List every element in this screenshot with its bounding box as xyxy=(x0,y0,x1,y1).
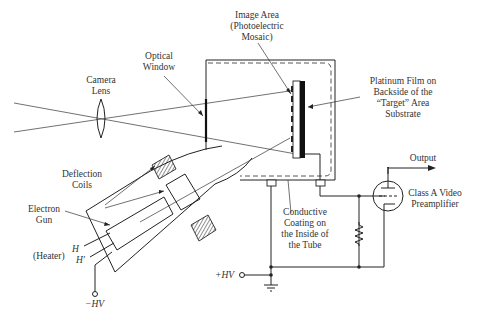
output-arrow-icon xyxy=(428,165,436,171)
coating-terminal xyxy=(267,180,276,186)
svg-text:Backside of the: Backside of the xyxy=(373,87,432,97)
labels: Camera Lens Optical Window Image Area (P… xyxy=(28,10,462,309)
svg-text:the Inside of: the Inside of xyxy=(281,229,329,239)
svg-text:“Target” Area: “Target” Area xyxy=(377,98,430,108)
vidicon-diagram: Camera Lens Optical Window Image Area (P… xyxy=(0,0,478,326)
label-electron-gun: Electron xyxy=(28,204,60,214)
svg-text:Gun: Gun xyxy=(36,215,53,225)
light-rays xyxy=(14,90,296,154)
label-deflection-coils: Deflection xyxy=(62,169,102,179)
svg-text:Preamplifier: Preamplifier xyxy=(411,199,459,209)
label-camera-lens: Camera xyxy=(86,75,116,85)
triode-icon xyxy=(373,165,436,267)
target-assembly xyxy=(291,81,320,182)
label-heater-h-prime: H′ xyxy=(75,255,86,265)
svg-text:Window: Window xyxy=(143,62,175,72)
heater-leads xyxy=(84,233,114,297)
tube-enclosure xyxy=(206,60,335,180)
svg-text:Mosaic): Mosaic) xyxy=(241,32,272,43)
svg-text:the Tube: the Tube xyxy=(289,240,322,250)
label-output: Output xyxy=(410,153,437,163)
label-heater-h: H xyxy=(71,244,80,254)
label-optical-window: Optical xyxy=(145,51,173,61)
svg-text:Substrate: Substrate xyxy=(385,109,420,119)
ground-icon xyxy=(264,275,278,291)
svg-text:Lens: Lens xyxy=(92,86,111,96)
label-preamp: Class A Video xyxy=(408,188,462,198)
label-minus-hv: −HV xyxy=(85,299,105,309)
svg-text:Coils: Coils xyxy=(72,180,92,190)
label-image-area: Image Area xyxy=(235,10,280,20)
leader-lines xyxy=(65,43,360,226)
label-plus-hv: +HV xyxy=(215,270,235,280)
label-platinum-film: Platinum Film on xyxy=(370,76,437,86)
target-terminal xyxy=(316,180,325,186)
svg-text:(Photoelectric: (Photoelectric xyxy=(230,21,283,32)
label-conductive-coating: Conductive xyxy=(283,207,327,217)
label-heater: (Heater) xyxy=(33,251,65,262)
svg-text:Coating on: Coating on xyxy=(284,218,326,228)
